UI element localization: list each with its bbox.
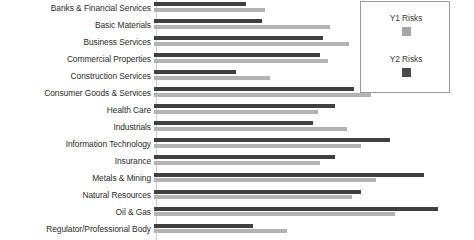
category-label: Metals & Mining — [0, 171, 154, 184]
category-label: Commercial Properties — [0, 51, 154, 64]
bar-group — [154, 171, 474, 188]
legend-label-y1-risks: Y1 Risks — [361, 13, 451, 23]
bar-y1-risks — [154, 195, 352, 199]
bar-y2-risks — [154, 224, 253, 228]
category-label: Oil & Gas — [0, 205, 154, 218]
bar-y1-risks — [154, 229, 287, 233]
bar-group — [154, 205, 474, 222]
chart-category-row: Industrials — [0, 119, 474, 136]
chart-category-row: Insurance — [0, 153, 474, 170]
legend-swatch-y2-risks — [402, 68, 411, 77]
category-label: Business Services — [0, 34, 154, 47]
category-label: Insurance — [0, 153, 154, 166]
bar-group — [154, 153, 474, 170]
legend-swatch-y1-risks — [402, 27, 411, 36]
bar-y2-risks — [154, 207, 438, 211]
legend-label-y2-risks: Y2 Risks — [361, 54, 451, 64]
bar-y1-risks — [154, 93, 371, 97]
bar-y2-risks — [154, 190, 361, 194]
category-label: Information Technology — [0, 136, 154, 149]
bar-group — [154, 102, 474, 119]
bar-y1-risks — [154, 212, 395, 216]
chart-category-row: Regulator/Professional Body — [0, 222, 474, 239]
bar-group — [154, 119, 474, 136]
bar-group — [154, 188, 474, 205]
legend-entry-y2-risks: Y2 Risks — [361, 54, 451, 77]
bar-y2-risks — [154, 121, 313, 125]
bar-y2-risks — [154, 19, 262, 23]
bar-y1-risks — [154, 42, 349, 46]
bar-y1-risks — [154, 76, 270, 80]
chart-category-row: Natural Resources — [0, 188, 474, 205]
category-label: Basic Materials — [0, 17, 154, 30]
chart-category-row: Information Technology — [0, 136, 474, 153]
chart-category-row: Health Care — [0, 102, 474, 119]
category-label: Banks & Financial Services — [0, 0, 154, 13]
category-label: Natural Resources — [0, 188, 154, 201]
bar-y2-risks — [154, 87, 354, 91]
bar-y1-risks — [154, 59, 328, 63]
bar-y2-risks — [154, 104, 335, 108]
bar-y2-risks — [154, 36, 323, 40]
bar-y1-risks — [154, 25, 330, 29]
bar-y2-risks — [154, 2, 246, 6]
bar-y1-risks — [154, 8, 265, 12]
legend-entry-y1-risks: Y1 Risks — [361, 13, 451, 36]
bar-y1-risks — [154, 127, 347, 131]
category-label: Regulator/Professional Body — [0, 222, 154, 235]
bar-y1-risks — [154, 110, 318, 114]
bar-y2-risks — [154, 53, 320, 57]
category-label: Construction Services — [0, 68, 154, 81]
bar-y2-risks — [154, 155, 335, 159]
bar-y1-risks — [154, 161, 320, 165]
bar-y2-risks — [154, 70, 236, 74]
bar-y2-risks — [154, 138, 390, 142]
bar-y2-risks — [154, 173, 424, 177]
chart-category-row: Oil & Gas — [0, 205, 474, 222]
bar-y1-risks — [154, 178, 376, 182]
category-label: Industrials — [0, 119, 154, 132]
category-label: Consumer Goods & Services — [0, 85, 154, 98]
horizontal-grouped-bar-chart: Banks & Financial ServicesBasic Material… — [0, 0, 474, 240]
chart-legend: Y1 Risks Y2 Risks — [360, 1, 450, 93]
category-label: Health Care — [0, 102, 154, 115]
chart-category-row: Metals & Mining — [0, 171, 474, 188]
bar-y1-risks — [154, 144, 361, 148]
bar-group — [154, 222, 474, 239]
bar-group — [154, 136, 474, 153]
